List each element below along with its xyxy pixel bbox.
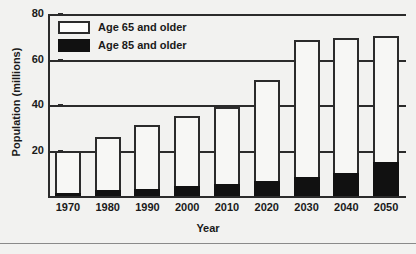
x-tick-label-2050: 2050: [361, 200, 411, 214]
legend-item: Age 85 and older: [58, 37, 198, 53]
bar-age-65-2030[interactable]: [294, 40, 320, 196]
x-axis-line: [48, 196, 406, 198]
bar-age-65-1980[interactable]: [95, 137, 121, 196]
bar-group-2040[interactable]: [333, 14, 359, 196]
bar-age-85-2040[interactable]: [333, 173, 359, 196]
bar-age-85-2030[interactable]: [294, 177, 320, 196]
chart-figure: 20406080 1970198019902000201020202030204…: [0, 0, 416, 254]
bar-group-2020[interactable]: [254, 14, 280, 196]
y-axis-title: Population (millions): [10, 32, 22, 172]
bar-age-85-1990[interactable]: [134, 189, 160, 196]
chart-legend: Age 65 and older Age 85 and older: [54, 16, 202, 56]
bar-group-2010[interactable]: [214, 14, 240, 196]
page-bottom-rule: [0, 243, 416, 244]
legend-swatch-age-65-icon: [58, 21, 90, 34]
bar-age-65-2000[interactable]: [174, 116, 200, 196]
bar-group-2050[interactable]: [373, 14, 399, 196]
legend-item: Age 65 and older: [58, 19, 198, 35]
bar-age-85-2010[interactable]: [214, 184, 240, 197]
bar-age-85-2020[interactable]: [254, 181, 280, 196]
bar-age-85-2000[interactable]: [174, 186, 200, 196]
legend-swatch-age-85-icon: [58, 39, 90, 52]
legend-label: Age 85 and older: [98, 39, 187, 51]
legend-label: Age 65 and older: [98, 21, 187, 33]
y-tick-label-80: 80: [18, 8, 44, 19]
bar-group-2030[interactable]: [294, 14, 320, 196]
bar-age-65-1970[interactable]: [55, 151, 81, 197]
x-axis-title: Year: [0, 222, 416, 234]
bar-age-65-2020[interactable]: [254, 80, 280, 196]
bar-age-65-1990[interactable]: [134, 125, 160, 196]
bar-age-85-2050[interactable]: [373, 162, 399, 196]
x-axis-tick-labels: 197019801990200020102020203020402050: [48, 200, 406, 216]
